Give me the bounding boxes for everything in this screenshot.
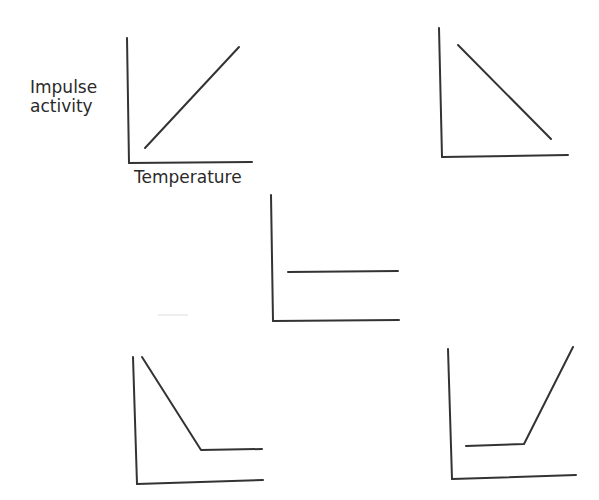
panel-bottom-right <box>448 347 576 479</box>
y-axis <box>439 28 442 157</box>
y-axis <box>271 195 273 321</box>
data-line-increasing <box>145 47 239 148</box>
y-axis-label-line1: Impulse <box>30 78 97 97</box>
x-axis <box>273 320 399 321</box>
data-line-plateau-increase <box>466 347 573 446</box>
y-axis-label-line2: activity <box>30 97 93 116</box>
y-axis <box>133 357 137 484</box>
y-axis <box>127 38 129 163</box>
data-line-constant <box>288 271 398 272</box>
x-axis <box>137 480 263 484</box>
panel-middle <box>271 195 399 321</box>
panel-bottom-left <box>133 357 263 484</box>
panel-top-right <box>439 28 568 157</box>
figure-canvas <box>0 0 599 500</box>
y-axis <box>448 349 452 479</box>
x-axis <box>129 162 252 163</box>
x-axis <box>442 155 568 157</box>
data-line-decrease-plateau <box>142 357 262 450</box>
x-axis-label: Temperature <box>134 168 242 187</box>
x-axis <box>452 475 576 479</box>
data-line-decreasing <box>458 45 551 139</box>
panel-top-left <box>127 38 252 163</box>
